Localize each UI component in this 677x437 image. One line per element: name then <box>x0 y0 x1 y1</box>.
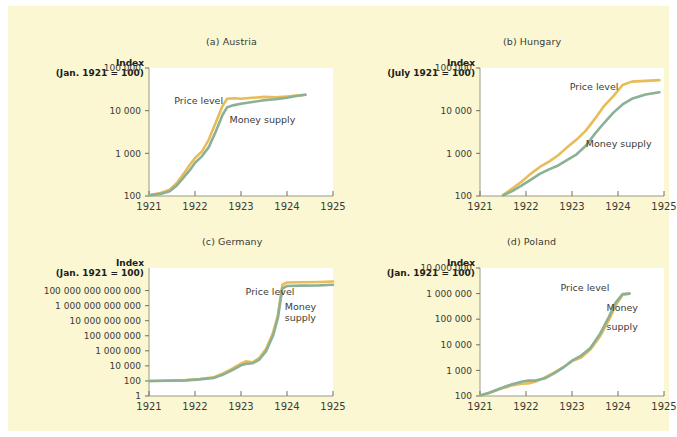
y-tick-label: 10 000 000 <box>420 263 472 273</box>
y-tick-label: 10 000 <box>441 106 473 116</box>
y-tick-label: 100 <box>455 191 472 201</box>
chart-svg-germany: 110010 0001 000 000100 000 00010 000 000… <box>8 219 338 431</box>
figure-panel: (a) Austria Index (Jan. 1921 = 100) 1001… <box>8 6 669 431</box>
x-tick-label: 1921 <box>467 401 492 412</box>
series-annotation: Price level <box>246 286 295 297</box>
y-tick-label: 100 000 000 000 000 <box>44 286 142 296</box>
y-tick-label: 100 <box>124 191 141 201</box>
x-tick-label: 1923 <box>559 401 584 412</box>
x-tick-label: 1924 <box>274 201 299 212</box>
y-tick-label: 10 000 <box>110 361 142 371</box>
y-tick-label: 1 000 000 000 000 <box>55 301 141 311</box>
series-annotation: supply <box>607 321 639 332</box>
y-tick-label: 100 000 000 <box>84 331 142 341</box>
series-annotation: Price level <box>561 282 610 293</box>
x-tick-label: 1925 <box>651 401 676 412</box>
x-tick-label: 1923 <box>228 401 253 412</box>
y-tick-label: 10 000 <box>110 106 142 116</box>
chart-panel-poland: (d) Poland Index (Jan. 1921 = 100) 1001 … <box>339 219 669 431</box>
y-tick-label: 100 <box>455 391 472 401</box>
series-annotation: Money supply <box>586 138 652 149</box>
y-tick-label: 100 000 <box>104 63 141 73</box>
series-annotation: Money <box>285 301 317 312</box>
x-tick-label: 1921 <box>467 201 492 212</box>
x-tick-label: 1922 <box>182 401 207 412</box>
chart-panel-austria: (a) Austria Index (Jan. 1921 = 100) 1001… <box>8 6 338 218</box>
y-tick-label: 100 <box>124 376 141 386</box>
y-tick-label: 10 000 000 000 <box>69 316 141 326</box>
chart-svg-austria: 1001 00010 000100 0001921192219231924192… <box>8 6 338 218</box>
series-annotation: Price level <box>174 95 223 106</box>
chart-svg-hungary: 1001 00010 000100 0001921192219231924192… <box>339 6 669 218</box>
x-tick-label: 1922 <box>513 401 538 412</box>
y-tick-label: 1 000 000 <box>426 289 472 299</box>
y-tick-label: 100 000 <box>435 314 472 324</box>
y-tick-label: 1 000 <box>115 149 141 159</box>
y-tick-label: 1 000 <box>446 149 472 159</box>
series-annotation: Money <box>607 302 639 313</box>
x-tick-label: 1921 <box>136 201 161 212</box>
y-tick-label: 100 000 <box>435 63 472 73</box>
x-tick-label: 1924 <box>605 401 630 412</box>
chart-svg-poland: 1001 00010 000100 0001 000 00010 000 000… <box>339 219 669 431</box>
chart-panel-germany: (c) Germany Index (Jan. 1921 = 100) 1100… <box>8 219 338 431</box>
series-annotation: Price level <box>570 81 619 92</box>
y-tick-label: 1 000 <box>446 366 472 376</box>
y-tick-label: 1 000 000 <box>95 346 141 356</box>
x-tick-label: 1922 <box>182 201 207 212</box>
y-tick-label: 10 000 <box>441 340 473 350</box>
x-tick-label: 1925 <box>651 201 676 212</box>
x-tick-label: 1924 <box>274 401 299 412</box>
x-tick-label: 1922 <box>513 201 538 212</box>
x-tick-label: 1924 <box>605 201 630 212</box>
x-tick-label: 1923 <box>559 201 584 212</box>
chart-panel-hungary: (b) Hungary Index (July 1921 = 100) 1001… <box>339 6 669 218</box>
y-tick-label: 1 <box>135 391 141 401</box>
series-annotation: Money supply <box>230 114 296 125</box>
x-tick-label: 1921 <box>136 401 161 412</box>
x-tick-label: 1923 <box>228 201 253 212</box>
series-annotation: supply <box>285 312 317 323</box>
